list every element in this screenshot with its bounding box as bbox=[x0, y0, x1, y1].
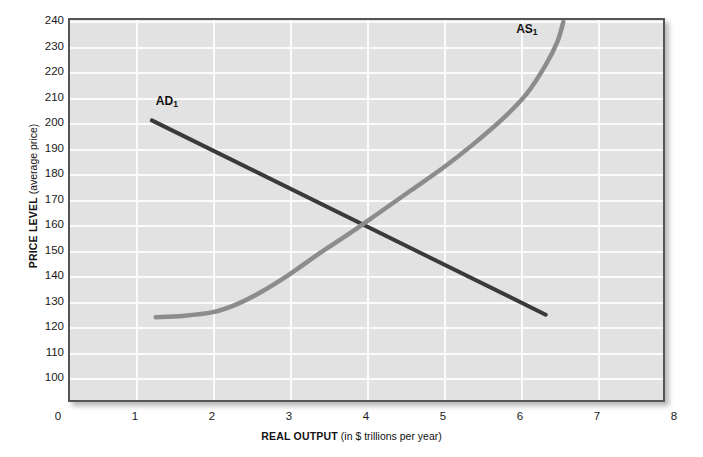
curve-layer bbox=[70, 20, 663, 400]
x-axis-tick-label: 8 bbox=[659, 410, 689, 423]
y-axis-tick-label: 240 bbox=[34, 14, 64, 26]
y-axis-title-bold: PRICE LEVEL bbox=[27, 197, 39, 268]
x-axis-title-bold: REAL OUTPUT bbox=[261, 430, 338, 442]
curve-as1 bbox=[156, 22, 564, 317]
x-axis-tick-label: 0 bbox=[43, 410, 73, 423]
curve-label-ad1-sub: 1 bbox=[173, 99, 178, 109]
curve-label-as1-text: AS bbox=[516, 22, 533, 36]
curve-label-ad1-text: AD bbox=[156, 94, 173, 108]
y-axis-tick-label: 100 bbox=[34, 371, 64, 383]
plot-area bbox=[68, 18, 665, 402]
y-axis-tick-label: 230 bbox=[34, 40, 64, 52]
y-axis-title: PRICE LEVEL (average price) bbox=[27, 86, 39, 306]
x-axis-tick-label: 7 bbox=[582, 410, 612, 423]
x-axis-tick-label: 1 bbox=[120, 410, 150, 423]
x-axis-tick-label: 3 bbox=[274, 410, 304, 423]
x-axis-title: REAL OUTPUT (in $ trillions per year) bbox=[0, 430, 703, 442]
x-axis-tick-label: 6 bbox=[505, 410, 535, 423]
curve-ad1 bbox=[152, 120, 546, 314]
x-axis-tick-label: 2 bbox=[197, 410, 227, 423]
y-axis-tick-label: 110 bbox=[34, 346, 64, 358]
x-axis-tick-labels: 012345678 bbox=[0, 410, 703, 428]
curve-label-as1-sub: 1 bbox=[533, 27, 538, 37]
y-axis-title-light: (average price) bbox=[27, 124, 39, 195]
y-axis-tick-label: 120 bbox=[34, 320, 64, 332]
y-axis-tick-label: 220 bbox=[34, 65, 64, 77]
x-axis-title-light: (in $ trillions per year) bbox=[341, 430, 442, 442]
x-axis-tick-label: 4 bbox=[351, 410, 381, 423]
chart-figure: 1001101201301401501601701801902002102202… bbox=[0, 0, 703, 457]
curve-label-as1: AS1 bbox=[516, 22, 537, 36]
curve-label-ad1: AD1 bbox=[156, 94, 178, 108]
x-axis-tick-label: 5 bbox=[428, 410, 458, 423]
